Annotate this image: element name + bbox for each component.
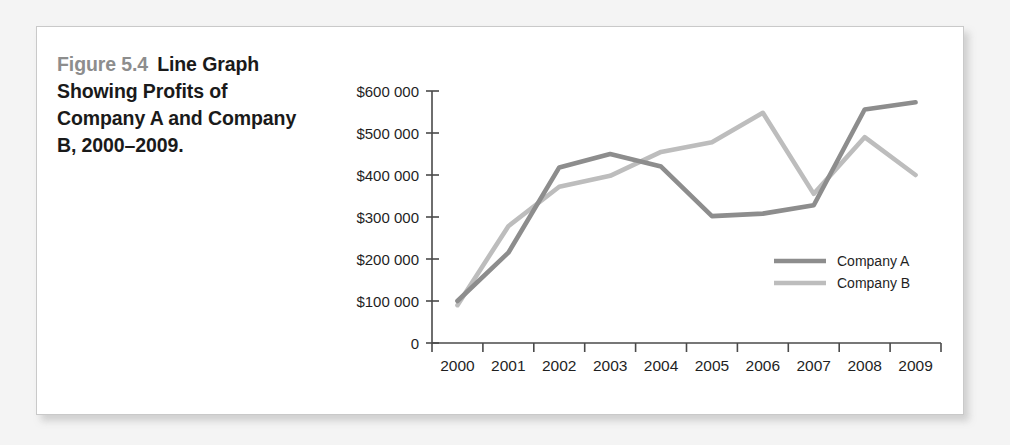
- x-tick-label: 2004: [644, 357, 679, 374]
- figure-caption: Figure 5.4Line Graph Showing Profits of …: [57, 51, 319, 159]
- legend-label: Company A: [837, 253, 910, 269]
- y-tick-label: $400 000: [356, 167, 419, 184]
- x-tick-label: 2001: [491, 357, 525, 374]
- chart-legend: Company ACompany B: [774, 253, 910, 291]
- chart-svg: $600 000$500 000$400 000$300 000$200 000…: [319, 41, 949, 391]
- x-tick-label: 2007: [797, 357, 831, 374]
- x-tick-label: 2009: [898, 357, 932, 374]
- y-tick-label: $200 000: [356, 251, 419, 268]
- y-tick-label: $600 000: [356, 83, 419, 100]
- legend-label: Company B: [837, 275, 910, 291]
- x-tick-label: 2000: [440, 357, 475, 374]
- x-tick-label: 2005: [695, 357, 729, 374]
- y-tick-label: $300 000: [356, 209, 419, 226]
- line-chart: $600 000$500 000$400 000$300 000$200 000…: [319, 41, 949, 391]
- y-axis-tick-labels: $600 000$500 000$400 000$300 000$200 000…: [356, 83, 419, 352]
- y-tick-label: $100 000: [356, 293, 419, 310]
- series-line-company-a: [457, 102, 915, 301]
- y-tick-label: $500 000: [356, 125, 419, 142]
- x-tick-label: 2008: [847, 357, 881, 374]
- figure-number: Figure 5.4: [57, 53, 148, 75]
- x-axis-tick-marks: [432, 343, 941, 352]
- figure-container: Figure 5.4Line Graph Showing Profits of …: [36, 26, 964, 415]
- y-tick-label: 0: [411, 335, 419, 352]
- x-axis-tick-labels: 2000200120022003200420052006200720082009: [440, 357, 933, 374]
- x-tick-label: 2002: [542, 357, 576, 374]
- x-tick-label: 2003: [593, 357, 627, 374]
- x-tick-label: 2006: [746, 357, 780, 374]
